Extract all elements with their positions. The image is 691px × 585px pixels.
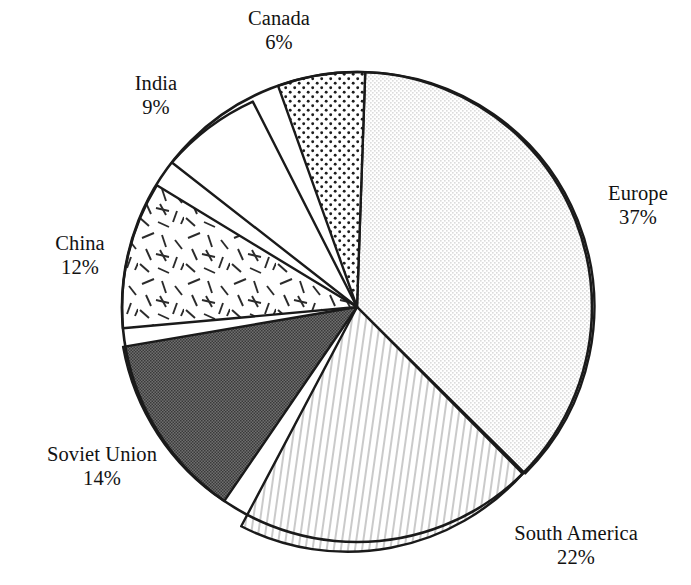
pie-label-south-america: South America 22% — [466, 522, 686, 570]
pie-chart: Canada 6% India 9% China 12% Soviet Unio… — [0, 0, 691, 585]
pie-label-canada: Canada 6% — [189, 7, 369, 55]
pie-label-soviet-union: Soviet Union 14% — [2, 443, 202, 491]
pie-label-china-name: China — [55, 232, 104, 254]
pie-label-canada-percent: 6% — [189, 31, 369, 55]
pie-label-europe-name: Europe — [608, 182, 668, 204]
pie-label-canada-name: Canada — [248, 7, 310, 29]
pie-label-india: India 9% — [76, 72, 236, 120]
pie-label-soviet-union-name: Soviet Union — [47, 443, 157, 465]
pie-label-south-america-name: South America — [514, 522, 638, 544]
pie-label-china-percent: 12% — [0, 256, 160, 280]
pie-label-india-percent: 9% — [76, 96, 236, 120]
pie-label-soviet-union-percent: 14% — [2, 467, 202, 491]
pie-label-china: China 12% — [0, 232, 160, 280]
pie-label-south-america-percent: 22% — [466, 546, 686, 570]
pie-label-europe-percent: 37% — [568, 206, 691, 230]
pie-label-india-name: India — [135, 72, 178, 94]
pie-label-europe: Europe 37% — [568, 182, 691, 230]
